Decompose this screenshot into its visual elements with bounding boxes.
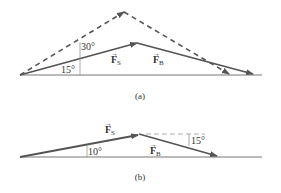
angle-label-10: 10° bbox=[88, 146, 102, 157]
vector-fs-b bbox=[20, 135, 138, 157]
vector-arrow-fb-a: → bbox=[153, 50, 160, 58]
caption-a: (a) bbox=[135, 91, 145, 101]
panel-b: 10° 15° FS → FB → (b) bbox=[20, 120, 262, 182]
vector-arrow-fb-b: → bbox=[150, 141, 157, 149]
angle-label-15: 15° bbox=[61, 64, 75, 75]
vector-diagram: 15° 30° FS → FB → (a) 10° 15° FS → FB → … bbox=[0, 0, 281, 193]
angle-label-30: 30° bbox=[81, 41, 95, 52]
caption-b: (b) bbox=[135, 172, 146, 182]
panel-a: 15° 30° FS → FB → (a) bbox=[20, 12, 262, 101]
vector-arrow-fs-a: → bbox=[111, 50, 118, 58]
vector-arrow-fs-b: → bbox=[105, 120, 112, 128]
angle-label-15-b: 15° bbox=[191, 135, 205, 146]
